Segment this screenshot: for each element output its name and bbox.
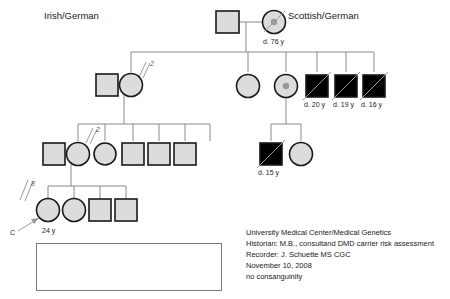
note-line-1: Historian: M.B., consultand DMD carrier … [246, 239, 435, 248]
square-symbol-unaffected[interactable] [122, 143, 144, 165]
individual-IV-3[interactable] [89, 199, 111, 221]
square-symbol-unaffected[interactable] [115, 199, 137, 221]
connector-lines [48, 22, 374, 199]
individual-II-6[interactable]: d. 19 y [332, 72, 360, 109]
individual-III-3[interactable] [94, 143, 116, 165]
count-mark-gen3-label: 2 [95, 126, 100, 133]
circle-symbol-unaffected[interactable] [94, 143, 116, 165]
obligate-carrier-dot [283, 83, 289, 89]
age-label-ii6: d. 19 y [333, 101, 355, 109]
individual-III-1[interactable] [43, 143, 65, 165]
count-mark-gen3: 2 [86, 126, 100, 144]
square-symbol-unaffected[interactable] [216, 11, 239, 33]
count-mark-gen4-label: 8 [31, 180, 35, 187]
individual-IV-1[interactable] [37, 199, 60, 222]
age-label-ii7: d. 16 y [361, 101, 383, 109]
square-symbol-unaffected[interactable] [96, 74, 118, 96]
individual-III-8[interactable] [290, 143, 313, 166]
individual-II-3[interactable] [237, 75, 260, 98]
individual-III-2[interactable] [67, 143, 90, 166]
note-line-2: Recorder: J. Schuette MS CGC [246, 250, 351, 259]
note-line-0: University Medical Center/Medical Geneti… [246, 228, 391, 237]
circle-symbol-unaffected[interactable] [120, 74, 143, 97]
pedigree-chart-page: 2 2 8 d. 76 y [0, 0, 450, 299]
circle-symbol-unaffected[interactable] [237, 75, 260, 98]
age-label-iv1: 24 y [42, 227, 56, 235]
square-symbol-unaffected[interactable] [148, 143, 170, 165]
individual-II-7[interactable]: d. 16 y [360, 72, 388, 109]
individual-III-4[interactable] [122, 143, 144, 165]
individual-II-5[interactable]: d. 20 y [303, 72, 331, 109]
proband-arrowhead [31, 218, 39, 224]
individual-IV-4[interactable] [115, 199, 137, 221]
circle-symbol-proband[interactable] [37, 199, 60, 222]
square-symbol-unaffected[interactable] [174, 143, 196, 165]
individual-I-2[interactable]: d. 76 y [263, 11, 286, 47]
square-symbol-unaffected[interactable] [89, 199, 111, 221]
notes-block: University Medical Center/Medical Geneti… [246, 228, 435, 281]
circle-symbol-unaffected[interactable] [290, 143, 313, 166]
individual-II-1[interactable] [96, 74, 118, 96]
individual-II-4[interactable] [275, 75, 298, 98]
individual-I-1[interactable] [216, 11, 239, 33]
ethnicity-label-right: Scottish/German [288, 10, 359, 21]
count-mark-gen4: 8 [20, 180, 35, 201]
individual-IV-2[interactable] [63, 199, 86, 222]
note-line-3: November 10, 2008 [246, 261, 312, 270]
key-legend-border [36, 243, 222, 291]
note-line-4: no consanguinity [246, 272, 303, 281]
ethnicity-label-left: Irish/German [44, 10, 99, 21]
individual-III-6[interactable] [174, 143, 196, 165]
age-label-ii5: d. 20 y [304, 101, 326, 109]
individual-II-2[interactable] [120, 74, 143, 97]
count-mark-gen2-label: 2 [149, 60, 154, 67]
age-label-i2: d. 76 y [263, 38, 285, 46]
individual-III-7[interactable]: d. 15 y [257, 140, 285, 177]
count-mark-gen2: 2 [139, 60, 154, 78]
proband-marker-label: C [10, 229, 15, 236]
age-label-iii7: d. 15 y [258, 169, 280, 177]
individual-III-5[interactable] [148, 143, 170, 165]
circle-symbol-unaffected[interactable] [67, 143, 90, 166]
square-symbol-unaffected[interactable] [43, 143, 65, 165]
circle-symbol-unaffected[interactable] [63, 199, 86, 222]
